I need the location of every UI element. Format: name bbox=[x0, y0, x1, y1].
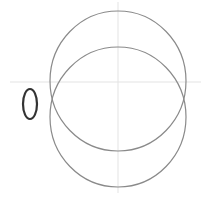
small-ellipse bbox=[23, 89, 37, 119]
diagram-canvas bbox=[0, 0, 201, 204]
diagram-svg bbox=[0, 0, 201, 204]
